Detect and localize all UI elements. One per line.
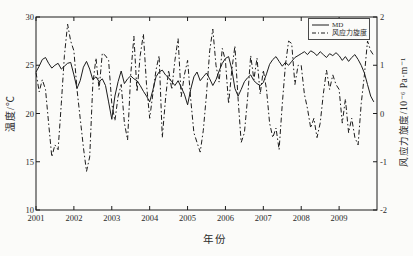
y-tick-label-left: 30	[26, 12, 35, 22]
x-tick-label: 2005	[179, 213, 196, 223]
legend-box: MD 风应力旋度	[308, 18, 370, 40]
solid-line-sample-icon	[312, 22, 329, 28]
x-tick-label: 2003	[103, 213, 120, 223]
x-tick-label: 2004	[141, 213, 159, 223]
legend-entry-md: MD	[312, 21, 366, 29]
y-tick-label-right: -1	[380, 157, 387, 167]
x-axis-label: 年份	[160, 231, 270, 246]
series-curl	[36, 24, 374, 171]
y-axis-label-left: 温度/℃	[2, 59, 17, 169]
dashdot-line-sample-icon	[312, 30, 329, 36]
y-tick-label-left: 20	[26, 109, 35, 119]
y-tick-label-left: 15	[26, 157, 35, 167]
y-tick-label-left: 25	[26, 60, 35, 70]
y-axis-label-right: 风应力旋度/10⁻⁶ Pa·m⁻¹	[396, 47, 410, 177]
x-tick-label: 2008	[293, 213, 310, 223]
y-tick-label-right: 1	[380, 60, 384, 70]
axes-frame	[36, 17, 377, 210]
y-tick-label-right: 2	[380, 12, 384, 22]
x-tick-label: 2007	[255, 213, 272, 223]
figure-canvas: 2001200220032004200520062007200820091015…	[0, 0, 413, 256]
x-tick-label: 2009	[331, 213, 348, 223]
legend-label-md: MD	[332, 21, 343, 29]
x-tick-label: 2002	[65, 213, 82, 223]
y-tick-label-right: 0	[380, 109, 384, 119]
y-tick-label-right: -2	[380, 205, 387, 215]
legend-entry-curl: 风应力旋度	[312, 29, 366, 37]
legend-label-curl: 风应力旋度	[332, 29, 367, 37]
x-tick-label: 2006	[217, 213, 234, 223]
y-tick-label-left: 10	[26, 205, 35, 215]
